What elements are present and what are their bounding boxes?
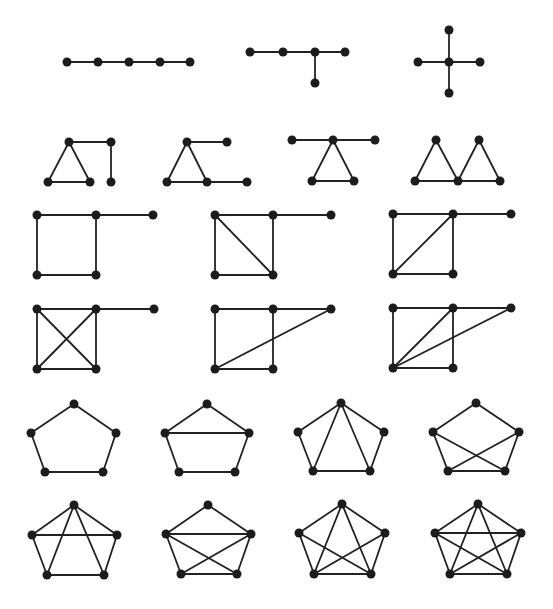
graph-vertex [269, 271, 278, 280]
graph-edge [479, 140, 500, 181]
graph-vertex [44, 178, 53, 187]
graph-vertex [161, 429, 170, 438]
graph-edge [104, 535, 117, 575]
graph-c5-three-chords-b [162, 501, 256, 579]
graph-edge [433, 432, 448, 471]
graph-vertex [233, 570, 242, 579]
graph-edge [181, 534, 251, 574]
graph-vertex [183, 138, 192, 147]
graph-edge [208, 505, 251, 534]
graph-vertex [310, 570, 319, 579]
graph-edge [299, 533, 371, 574]
graph-vertex [327, 211, 336, 220]
graph-vertex [92, 211, 101, 220]
graph-vertex [311, 48, 320, 57]
graph-vertex [446, 570, 455, 579]
graph-edge [166, 505, 208, 534]
graph-edge [48, 142, 69, 182]
graph-vertex [112, 429, 121, 438]
graph-vertex [156, 58, 165, 67]
graph-vertex [113, 531, 122, 540]
graph-vertex [288, 136, 297, 145]
graph-triangle-path-tail [44, 138, 116, 187]
graph-vertex [175, 468, 184, 477]
graph-vertex [515, 428, 524, 437]
graph-path-p5 [63, 58, 195, 67]
graph-vertex [246, 48, 255, 57]
graph-edge [436, 140, 458, 181]
graph-vertex [476, 58, 485, 67]
graph-vertex [329, 136, 338, 145]
graph-vertex [231, 468, 240, 477]
graph-vertex [247, 530, 256, 539]
graph-vertex [414, 58, 423, 67]
graph-c5-three-chords-a [28, 501, 122, 580]
graph-c5-four-chords [295, 500, 390, 579]
graph-complete-k5 [431, 500, 526, 579]
graph-vertex [389, 364, 398, 373]
graph-vertex [269, 305, 278, 314]
graph-vertex [99, 468, 108, 477]
graph-vertex [503, 570, 512, 579]
graph-triangle-two-pendants-same-vertex [288, 136, 380, 186]
graph-vertex [211, 271, 220, 280]
graph-vertex [107, 178, 116, 187]
graph-edge [415, 140, 436, 181]
graph-vertex [203, 400, 212, 409]
graph-edge [433, 403, 476, 432]
graph-vertex [454, 177, 463, 186]
graph-star-k14 [414, 26, 485, 98]
graph-vertex [125, 58, 134, 67]
graph-c5-two-chords-fan [294, 399, 389, 476]
graph-square-diag-tail-b [389, 210, 516, 279]
graph-vertex [70, 501, 79, 510]
graph-edge [166, 534, 237, 574]
graph-bowtie [411, 136, 505, 186]
graph-edge [103, 433, 116, 472]
graph-edge [165, 404, 207, 433]
graph-square-long-chord [211, 305, 336, 374]
graph-vertex [245, 429, 254, 438]
graph-edge [393, 214, 453, 274]
graph-vertex [295, 529, 304, 538]
graph-vertex [411, 177, 420, 186]
graph-vertex [311, 79, 320, 88]
graph-edge [167, 142, 187, 182]
graph-vertex [204, 501, 213, 510]
graph-edge [235, 433, 249, 472]
graph-vertex [308, 177, 317, 186]
graph-vertex [337, 399, 346, 408]
graph-vertex [92, 271, 101, 280]
graph-edge [69, 142, 90, 182]
graph-vertex [149, 211, 158, 220]
graph-vertex [327, 305, 336, 314]
graph-vertex [380, 428, 389, 437]
graph-vertex [294, 428, 303, 437]
graph-catalog-diagram [0, 0, 553, 609]
graph-vertex [389, 270, 398, 279]
graph-vertex [27, 429, 36, 438]
graph-vertex [186, 58, 195, 67]
graph-edge [215, 215, 273, 275]
graph-edge [314, 533, 385, 574]
graph-vertex [338, 500, 347, 509]
graph-vertex [431, 529, 440, 538]
graph-edge [433, 432, 505, 471]
graph-edge [298, 432, 313, 471]
graph-vertex [472, 399, 481, 408]
graph-vertex [65, 138, 74, 147]
graph-tree-spider [246, 48, 350, 88]
graph-square-diag-long-chord [389, 304, 516, 373]
graph-vertex [371, 136, 380, 145]
graph-triangle-two-pendants [163, 138, 252, 187]
graph-edge [393, 308, 453, 368]
graph-edge [458, 140, 479, 181]
graph-vertex [507, 304, 516, 313]
graph-vertex [449, 364, 458, 373]
graph-cycle-c5 [27, 400, 121, 477]
graph-vertex [389, 210, 398, 219]
graph-edge [448, 432, 519, 471]
graph-vertex [28, 531, 37, 540]
graph-vertex [33, 305, 42, 314]
graph-vertex [211, 365, 220, 374]
